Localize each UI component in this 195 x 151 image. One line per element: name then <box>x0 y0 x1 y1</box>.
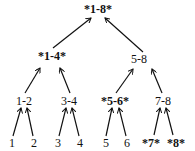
tree-node-n78: 7-8 <box>155 95 171 107</box>
tree-node-l1: 1 <box>9 137 15 149</box>
arrow-l2-to-n12 <box>27 108 33 136</box>
arrow-n34-to-n14 <box>60 68 70 93</box>
arrow-l3-to-n34 <box>59 108 66 136</box>
tree-edges <box>0 0 195 151</box>
arrow-l4-to-n34 <box>72 108 79 136</box>
arrow-l7-to-n78 <box>154 108 160 135</box>
tree-node-l4: 4 <box>77 137 83 149</box>
arrow-n56-to-n58 <box>116 69 133 93</box>
tree-node-n34: 3-4 <box>61 95 77 107</box>
tree-node-n58: 5-8 <box>131 53 147 65</box>
tree-node-n14: *1-4* <box>38 50 66 62</box>
tree-node-n12: 1-2 <box>16 95 32 107</box>
arrow-n78-to-n58 <box>152 69 162 93</box>
arrow-l5-to-n56 <box>106 108 112 136</box>
tree-node-l8: *8* <box>167 137 185 149</box>
tree-node-l2: 2 <box>31 137 37 149</box>
tree-node-n56: *5-6* <box>101 95 129 107</box>
tree-node-l3: 3 <box>55 137 61 149</box>
tree-node-l6: 6 <box>124 137 130 149</box>
arrow-n58-to-n18 <box>105 18 143 52</box>
arrow-n12-to-n14 <box>25 68 40 93</box>
arrow-l8-to-n78 <box>166 108 173 135</box>
tree-node-n18: *1-8* <box>84 3 112 15</box>
arrow-l1-to-n12 <box>13 108 21 136</box>
tree-node-l5: 5 <box>103 137 109 149</box>
tree-node-l7: *7* <box>142 137 160 149</box>
arrow-n14-to-n18 <box>53 18 91 48</box>
arrow-l6-to-n56 <box>119 108 126 136</box>
